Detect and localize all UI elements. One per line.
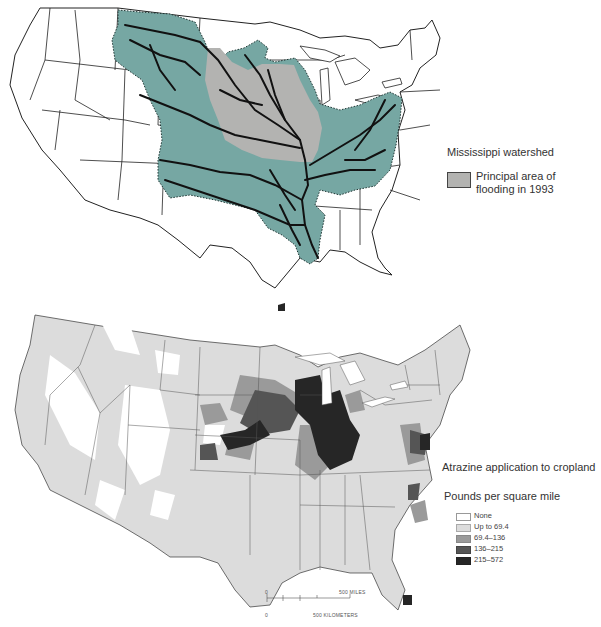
- legend-label-up-to-69: Up to 69.4: [474, 522, 509, 531]
- flood-legend-line2: flooding in 1993: [476, 183, 554, 196]
- scale-km-zero: 0: [265, 612, 268, 618]
- watershed-legend-label: Mississippi watershed: [447, 146, 554, 159]
- legend-label-215-572: 215–572: [474, 555, 503, 564]
- legend-label-136-215: 136–215: [474, 544, 503, 553]
- atrazine-title: Atrazine application to cropland: [442, 461, 595, 474]
- legend-label-69-136: 69.4–136: [474, 533, 505, 542]
- scale-miles-zero: 0: [265, 589, 268, 595]
- legend-swatch-69-136: [456, 535, 471, 543]
- legend-swatch-none: [456, 513, 471, 521]
- legend-label-none: None: [474, 511, 492, 520]
- flood-swatch: [447, 172, 471, 188]
- legend-swatch-215-572: [456, 557, 471, 565]
- legend-swatch-up-to-69: [456, 524, 471, 532]
- scale-km-label: 500 KILOMETERS: [313, 612, 358, 618]
- watershed-map: [0, 0, 601, 290]
- us-outline-bottom: [15, 315, 470, 610]
- scale-miles-label: 500 MILES: [339, 589, 366, 595]
- scale-bar: [267, 594, 350, 602]
- legend-swatch-136-215: [456, 546, 471, 554]
- flood-legend-line1: Principal area of: [476, 170, 556, 183]
- atrazine-subtitle: Pounds per square mile: [444, 490, 560, 503]
